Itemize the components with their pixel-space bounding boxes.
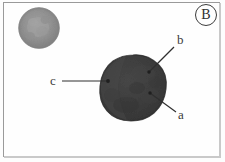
panel-letter: B bbox=[195, 4, 219, 28]
callout-label-b: b bbox=[177, 33, 184, 46]
figure-graphic-canvas bbox=[0, 0, 225, 162]
panel-letter-text: B bbox=[195, 4, 217, 26]
figure-panel: a b c B bbox=[0, 0, 225, 162]
callout-label-c: c bbox=[50, 74, 56, 87]
small-gray-sphere bbox=[19, 8, 59, 48]
callout-dot-b bbox=[147, 70, 150, 73]
callout-dot-a bbox=[148, 91, 151, 94]
callout-dot-c bbox=[106, 79, 110, 83]
callout-label-a: a bbox=[178, 108, 184, 121]
